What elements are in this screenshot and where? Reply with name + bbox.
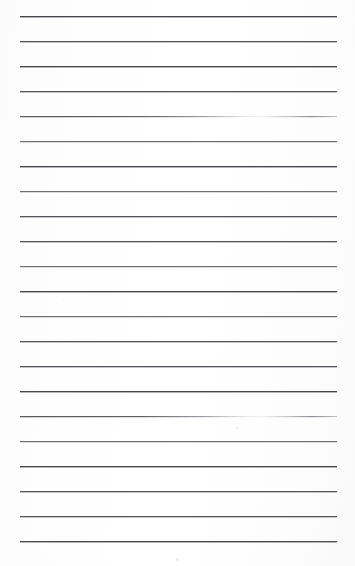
ruled-line-halo [20,292,337,293]
ruled-line-halo [20,192,337,193]
ruled-line-halo [20,217,337,218]
ruled-line [20,466,337,468]
ruled-line [20,266,337,268]
ruled-line [20,16,337,18]
ruled-line [20,341,337,343]
ruled-line-halo [20,242,337,243]
ruled-line [20,66,337,68]
ruled-line [20,166,337,168]
ruled-line-halo [20,92,337,93]
ruled-line-halo [20,142,337,143]
speck [236,427,238,429]
ruled-line-halo [20,392,337,393]
ruled-line [20,316,337,318]
ruled-line [20,41,337,43]
ruled-line [20,91,337,93]
ruled-line [20,191,337,193]
ruled-line-halo [20,442,337,443]
ruled-line-halo [20,367,337,368]
ruled-line-halo [20,342,337,343]
ruled-line-halo [20,492,337,493]
ruled-line [20,216,337,218]
ruled-line-halo [20,67,337,68]
ruled-line [20,366,337,368]
ruled-line [20,441,337,443]
ruled-line-halo [20,417,337,418]
ruled-line [20,116,337,118]
ruled-line [20,516,337,518]
ruled-line [20,291,337,293]
ruled-line [20,391,337,393]
ruled-lines-layer [0,0,355,566]
ruled-line-halo [20,267,337,268]
lined-paper-page [0,0,355,566]
ruled-line [20,141,337,143]
ruled-line-halo [20,42,337,43]
ruled-line [20,491,337,493]
ruled-line-halo [20,167,337,168]
ruled-line-halo [20,17,337,18]
ruled-line-halo [20,467,337,468]
ruled-line [20,416,337,418]
speck [63,300,64,301]
ruled-line [20,541,337,543]
ruled-line-halo [20,542,337,543]
ruled-line-halo [20,117,337,118]
ruled-line-halo [20,317,337,318]
speck [176,558,179,561]
ruled-line-halo [20,517,337,518]
ruled-line [20,241,337,243]
